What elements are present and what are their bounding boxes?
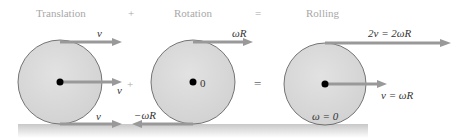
top-velocity-label: 2v = 2ωR: [368, 27, 412, 39]
top-velocity-arrow: [325, 39, 451, 47]
plus-operator-top: +: [128, 7, 134, 19]
hub-dot-icon: [190, 79, 197, 86]
center-velocity-label: v = ωR: [381, 89, 414, 101]
ground-surface: [18, 124, 368, 138]
rotation-wheel: ωR 0 −ωR: [132, 27, 253, 128]
center-velocity-label: v: [117, 84, 122, 96]
plus-operator-mid: +: [127, 78, 133, 90]
bottom-velocity-label: −ωR: [134, 109, 156, 121]
equals-operator-mid: =: [254, 76, 261, 91]
hub-dot-icon: [57, 79, 64, 86]
rolling-wheel: 2v = 2ωR v = ωR ω = 0: [284, 27, 451, 125]
top-velocity-label: v: [97, 27, 102, 39]
title-rolling: Rolling: [306, 7, 340, 19]
equals-operator-top: =: [255, 7, 261, 19]
rolling-motion-diagram: Translation + Rotation = Rolling v v +: [0, 0, 464, 140]
center-velocity-label: 0: [200, 77, 206, 89]
top-velocity-label: ωR: [232, 27, 247, 39]
title-rotation: Rotation: [174, 7, 212, 19]
contact-point-label: ω = 0: [312, 110, 339, 122]
hub-dot-icon: [322, 81, 329, 88]
bottom-velocity-label: v: [96, 110, 101, 122]
title-translation: Translation: [36, 7, 86, 19]
translation-wheel: v v + v: [18, 27, 133, 128]
